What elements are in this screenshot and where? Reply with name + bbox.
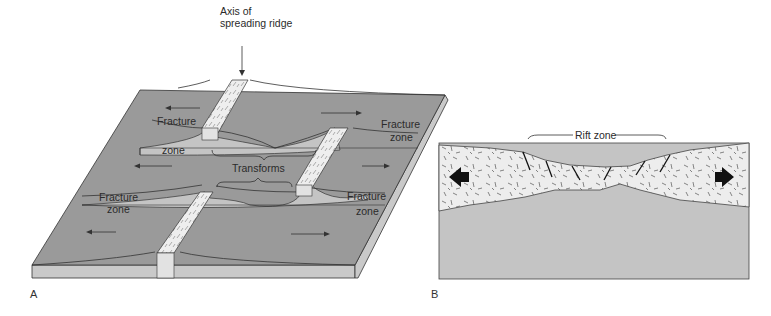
- rift-zone-label: Rift zone: [575, 129, 616, 141]
- fracture-zone-label-3-bottom: zone: [107, 203, 130, 215]
- transforms-label: Transforms: [232, 162, 285, 174]
- fracture-zone-label-4-bottom: zone: [356, 205, 379, 217]
- axis-label-line2: spreading ridge: [220, 17, 292, 29]
- figure-canvas: [0, 0, 771, 316]
- axis-label-line1: Axis of: [220, 5, 292, 17]
- fracture-zone-label-2-bottom: zone: [390, 131, 413, 143]
- panel-b-letter: B: [431, 288, 438, 300]
- panel-b-rift-cross-section: [439, 135, 749, 279]
- plate-front-face: [32, 265, 355, 278]
- fracture-zone-label-3-top: Fracture: [99, 191, 138, 203]
- fracture-zone-label-4-top: Fracture: [347, 190, 386, 202]
- fracture-zone-label-1-bottom: zone: [162, 144, 185, 156]
- fracture-zone-label-2-top: Fracture: [381, 118, 420, 130]
- axis-label: Axis of spreading ridge: [220, 5, 292, 29]
- plate-top-surface: [32, 90, 445, 265]
- axis-pointer-arrow: [239, 46, 245, 76]
- fracture-zone-label-1-top: Fracture: [157, 115, 196, 127]
- panel-a-letter: A: [30, 288, 37, 300]
